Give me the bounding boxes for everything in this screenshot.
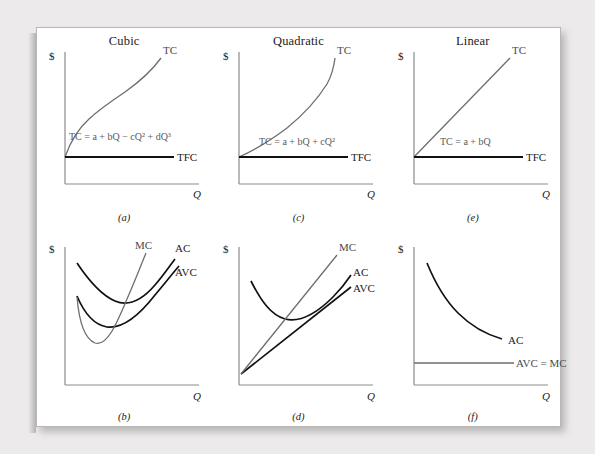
panel-a-label-tfc: TFC xyxy=(177,151,197,163)
panel-f-curve-ac xyxy=(427,263,502,339)
panel-b-plot: $ MC AC AVC Q xyxy=(47,237,209,402)
panel-c-plot: $ TC TFC TC = a + bQ + cQ² Q xyxy=(221,44,383,199)
panel-c-letter: (c) xyxy=(211,212,385,223)
panel-d-quadratic-averages: $ MC AC AVC Q (d) xyxy=(211,227,385,426)
panel-d-label-mc: MC xyxy=(339,241,356,253)
panel-e-label-tfc: TFC xyxy=(526,151,546,163)
panel-d-label-avc: AVC xyxy=(353,282,375,294)
panel-b-label-ac: AC xyxy=(175,242,190,254)
panel-c-y-label: $ xyxy=(223,50,229,62)
panel-a-x-label: Q xyxy=(193,188,201,200)
panel-f-label-ac: AC xyxy=(508,334,523,346)
panel-b-cubic-averages: $ MC AC AVC Q (b) xyxy=(37,227,211,426)
panel-b-curve-mc xyxy=(77,253,146,343)
panel-d-x-label: Q xyxy=(367,390,375,402)
panel-e-letter: (e) xyxy=(386,212,560,223)
panel-e-x-label: Q xyxy=(542,188,550,200)
panel-e-plot: $ TC TFC TC = a + bQ Q xyxy=(396,44,558,199)
panel-b-y-label: $ xyxy=(49,243,55,255)
panel-e-label-tc: TC xyxy=(512,44,526,56)
panel-b-curve-ac xyxy=(77,259,175,303)
panel-c-label-tc: TC xyxy=(337,44,351,56)
panel-e-y-label: $ xyxy=(398,50,404,62)
panel-c-quadratic: Quadratic $ TC TFC TC = a + bQ + cQ² Q (… xyxy=(211,28,385,227)
panel-a-curve-tc xyxy=(65,58,161,157)
panel-b-label-mc: MC xyxy=(135,239,152,251)
panel-c-equation: TC = a + bQ + cQ² xyxy=(259,136,335,147)
panel-c-label-tfc: TFC xyxy=(351,151,371,163)
panel-d-curve-ac xyxy=(251,275,351,320)
panel-d-label-ac: AC xyxy=(353,266,368,278)
panel-d-plot: $ MC AC AVC Q xyxy=(221,237,383,402)
panel-b-x-label: Q xyxy=(193,390,201,402)
panel-a-letter: (a) xyxy=(37,212,211,223)
panel-e-equation: TC = a + bQ xyxy=(440,136,491,147)
panel-grid: Cubic $ TC TFC TC = a + bQ − cQ² + dQ³ Q… xyxy=(37,28,560,426)
page-shadow xyxy=(28,33,36,433)
panel-a-label-tc: TC xyxy=(163,44,177,56)
panel-c-x-label: Q xyxy=(367,188,375,200)
panel-f-x-label: Q xyxy=(542,390,550,402)
panel-a-y-label: $ xyxy=(49,50,55,62)
panel-a-cubic: Cubic $ TC TFC TC = a + bQ − cQ² + dQ³ Q… xyxy=(37,28,211,227)
panel-f-linear-averages: $ AC AVC = MC Q (f) xyxy=(386,227,560,426)
panel-d-letter: (d) xyxy=(211,411,385,422)
panel-d-curve-avc xyxy=(241,287,351,374)
panel-f-label-avc-mc: AVC = MC xyxy=(516,357,567,369)
panel-f-plot: $ AC AVC = MC Q xyxy=(396,237,558,402)
panel-b-letter: (b) xyxy=(37,411,211,422)
panel-d-curve-mc xyxy=(241,255,337,374)
panel-a-plot: $ TC TFC TC = a + bQ − cQ² + dQ³ Q xyxy=(47,44,209,199)
panel-b-label-avc: AVC xyxy=(175,266,197,278)
panel-d-y-label: $ xyxy=(223,243,229,255)
panel-a-equation: TC = a + bQ − cQ² + dQ³ xyxy=(69,131,171,142)
panel-f-letter: (f) xyxy=(386,411,560,422)
panel-f-y-label: $ xyxy=(398,243,404,255)
panel-e-linear: Linear $ TC TFC TC = a + bQ Q (e) xyxy=(386,28,560,227)
figure-card: Cubic $ TC TFC TC = a + bQ − cQ² + dQ³ Q… xyxy=(36,27,561,427)
